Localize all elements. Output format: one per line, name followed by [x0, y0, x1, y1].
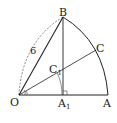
right-angle-marker — [63, 91, 67, 95]
sector-diagram: B C O A A1 C1 6 — [0, 0, 117, 123]
label-C: C — [96, 42, 104, 55]
label-A: A — [102, 97, 112, 110]
label-O: O — [10, 96, 19, 109]
label-A1: A1 — [57, 97, 70, 111]
label-C1: C1 — [49, 63, 62, 77]
angle-mark-O-2 — [26, 91, 27, 95]
label-B: B — [59, 6, 67, 19]
segment-OB — [19, 17, 63, 95]
angle-mark-O — [24, 90, 25, 95]
edge-length-label: 6 — [30, 45, 36, 56]
